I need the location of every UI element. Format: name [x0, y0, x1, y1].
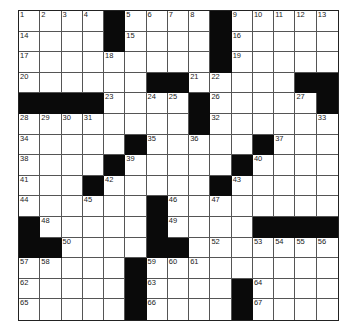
- grid-cell[interactable]: 49: [168, 217, 189, 238]
- grid-cell[interactable]: [232, 238, 253, 259]
- grid-cell[interactable]: [62, 217, 83, 238]
- grid-cell[interactable]: [168, 32, 189, 53]
- grid-cell[interactable]: [274, 93, 295, 114]
- grid-cell[interactable]: [295, 52, 316, 73]
- grid-cell[interactable]: [104, 238, 125, 259]
- grid-cell[interactable]: 60: [168, 258, 189, 279]
- grid-cell[interactable]: [189, 196, 210, 217]
- grid-cell[interactable]: 43: [232, 176, 253, 197]
- grid-cell[interactable]: [232, 114, 253, 135]
- grid-cell[interactable]: 37: [274, 135, 295, 156]
- grid-cell[interactable]: 46: [168, 196, 189, 217]
- grid-cell[interactable]: [274, 258, 295, 279]
- grid-cell[interactable]: [295, 135, 316, 156]
- grid-cell[interactable]: 7: [168, 11, 189, 32]
- grid-cell[interactable]: [189, 176, 210, 197]
- grid-cell[interactable]: [125, 52, 146, 73]
- grid-cell[interactable]: [210, 299, 231, 320]
- grid-cell[interactable]: [210, 155, 231, 176]
- grid-cell[interactable]: [274, 176, 295, 197]
- grid-cell[interactable]: [104, 279, 125, 300]
- grid-cell[interactable]: 56: [317, 238, 338, 259]
- grid-cell[interactable]: [210, 279, 231, 300]
- grid-cell[interactable]: [83, 238, 104, 259]
- grid-cell[interactable]: 2: [40, 11, 61, 32]
- grid-cell[interactable]: [40, 32, 61, 53]
- grid-cell[interactable]: 13: [317, 11, 338, 32]
- grid-cell[interactable]: [125, 217, 146, 238]
- grid-cell[interactable]: [295, 155, 316, 176]
- grid-cell[interactable]: [147, 176, 168, 197]
- grid-cell[interactable]: [104, 217, 125, 238]
- grid-cell[interactable]: 66: [147, 299, 168, 320]
- grid-cell[interactable]: [295, 114, 316, 135]
- grid-cell[interactable]: 6: [147, 11, 168, 32]
- grid-cell[interactable]: [232, 93, 253, 114]
- grid-cell[interactable]: [168, 114, 189, 135]
- grid-cell[interactable]: [295, 258, 316, 279]
- grid-cell[interactable]: 11: [274, 11, 295, 32]
- grid-cell[interactable]: [62, 176, 83, 197]
- grid-cell[interactable]: 30: [62, 114, 83, 135]
- grid-cell[interactable]: [125, 93, 146, 114]
- grid-cell[interactable]: [274, 299, 295, 320]
- grid-cell[interactable]: 20: [19, 73, 40, 94]
- grid-cell[interactable]: [40, 52, 61, 73]
- grid-cell[interactable]: 64: [253, 279, 274, 300]
- grid-cell[interactable]: [189, 279, 210, 300]
- grid-cell[interactable]: [274, 73, 295, 94]
- grid-cell[interactable]: [104, 299, 125, 320]
- grid-cell[interactable]: [232, 217, 253, 238]
- grid-cell[interactable]: [295, 196, 316, 217]
- grid-cell[interactable]: [317, 196, 338, 217]
- grid-cell[interactable]: 65: [19, 299, 40, 320]
- grid-cell[interactable]: 3: [62, 11, 83, 32]
- grid-cell[interactable]: 15: [125, 32, 146, 53]
- grid-cell[interactable]: [62, 299, 83, 320]
- grid-cell[interactable]: [83, 32, 104, 53]
- grid-cell[interactable]: [317, 32, 338, 53]
- grid-cell[interactable]: [274, 32, 295, 53]
- grid-cell[interactable]: 14: [19, 32, 40, 53]
- grid-cell[interactable]: [40, 135, 61, 156]
- grid-cell[interactable]: 63: [147, 279, 168, 300]
- grid-cell[interactable]: [104, 196, 125, 217]
- grid-cell[interactable]: [253, 32, 274, 53]
- grid-cell[interactable]: [189, 32, 210, 53]
- grid-cell[interactable]: [62, 258, 83, 279]
- grid-cell[interactable]: [317, 258, 338, 279]
- grid-cell[interactable]: [295, 32, 316, 53]
- grid-cell[interactable]: 61: [189, 258, 210, 279]
- grid-cell[interactable]: [83, 155, 104, 176]
- grid-cell[interactable]: [104, 135, 125, 156]
- grid-cell[interactable]: [83, 217, 104, 238]
- grid-cell[interactable]: [317, 279, 338, 300]
- grid-cell[interactable]: 52: [210, 238, 231, 259]
- grid-cell[interactable]: [62, 52, 83, 73]
- grid-cell[interactable]: [62, 73, 83, 94]
- grid-cell[interactable]: [274, 114, 295, 135]
- grid-cell[interactable]: [125, 238, 146, 259]
- grid-cell[interactable]: 22: [210, 73, 231, 94]
- grid-cell[interactable]: 31: [83, 114, 104, 135]
- grid-cell[interactable]: [189, 217, 210, 238]
- grid-cell[interactable]: 53: [253, 238, 274, 259]
- grid-cell[interactable]: [62, 32, 83, 53]
- grid-cell[interactable]: [125, 176, 146, 197]
- grid-cell[interactable]: 21: [189, 73, 210, 94]
- grid-cell[interactable]: [295, 279, 316, 300]
- grid-cell[interactable]: [189, 155, 210, 176]
- grid-cell[interactable]: [189, 299, 210, 320]
- grid-cell[interactable]: [40, 155, 61, 176]
- grid-cell[interactable]: [232, 258, 253, 279]
- grid-cell[interactable]: 36: [189, 135, 210, 156]
- grid-cell[interactable]: [168, 155, 189, 176]
- grid-cell[interactable]: [295, 176, 316, 197]
- grid-cell[interactable]: 1: [19, 11, 40, 32]
- grid-cell[interactable]: [253, 93, 274, 114]
- grid-cell[interactable]: [253, 176, 274, 197]
- grid-cell[interactable]: [104, 114, 125, 135]
- grid-cell[interactable]: [274, 52, 295, 73]
- grid-cell[interactable]: 32: [210, 114, 231, 135]
- grid-cell[interactable]: 55: [295, 238, 316, 259]
